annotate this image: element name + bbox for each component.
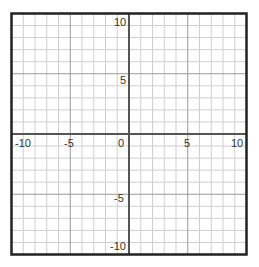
y-tick-label-neg10: -10 xyxy=(110,240,126,252)
y-tick-label-10: 10 xyxy=(114,16,126,28)
x-tick-label-neg5: -5 xyxy=(64,137,74,149)
coordinate-plane: -10 -5 0 5 10 10 5 -5 -10 xyxy=(0,0,259,267)
y-tick-label-neg5: -5 xyxy=(114,192,124,204)
x-tick-label-10: 10 xyxy=(231,137,243,149)
y-tick-label-5: 5 xyxy=(120,74,126,86)
x-tick-label-5: 5 xyxy=(184,137,190,149)
x-tick-label-neg10: -10 xyxy=(15,137,31,149)
x-tick-label-0: 0 xyxy=(118,137,124,149)
